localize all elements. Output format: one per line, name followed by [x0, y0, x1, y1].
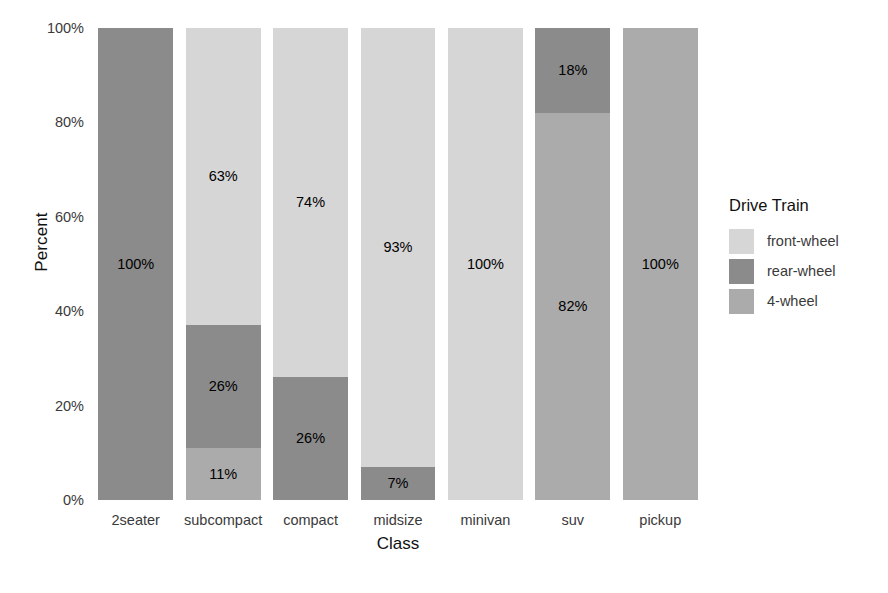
- bar-column[interactable]: 82%18%: [535, 28, 610, 500]
- bar-segment-label: 82%: [558, 299, 587, 314]
- bar-stack: 100%: [623, 28, 698, 500]
- x-axis-tick: pickup: [639, 512, 681, 528]
- x-axis-tick: suv: [562, 512, 585, 528]
- bar-column[interactable]: 100%: [623, 28, 698, 500]
- x-axis-tick: subcompact: [184, 512, 262, 528]
- bar-segment[interactable]: 82%: [535, 113, 610, 500]
- bar-stack: 26%74%: [273, 28, 348, 500]
- y-axis-tick: 40%: [0, 303, 84, 319]
- x-axis-tick-labels: 2seatersubcompactcompactmidsizeminivansu…: [92, 512, 704, 534]
- y-axis-tick: 80%: [0, 114, 84, 130]
- legend-swatch: [729, 289, 754, 314]
- legend-items: front-wheelrear-wheel4-wheel: [729, 226, 879, 316]
- legend-item-label: 4-wheel: [767, 293, 818, 309]
- bar-column[interactable]: 11%26%63%: [186, 28, 261, 500]
- x-axis-tick: 2seater: [112, 512, 160, 528]
- bar-stack: 7%93%: [361, 28, 436, 500]
- bar-column[interactable]: 100%: [448, 28, 523, 500]
- plot-panel: 100%11%26%63%26%74%7%93%100%82%18%100%: [92, 28, 704, 500]
- x-axis-title: Class: [92, 534, 704, 554]
- bar-stack: 82%18%: [535, 28, 610, 500]
- legend-swatch: [729, 229, 754, 254]
- bar-segment[interactable]: 26%: [273, 377, 348, 500]
- y-axis-tick: 0%: [0, 492, 84, 508]
- bar-segment[interactable]: 100%: [623, 28, 698, 500]
- bar-column[interactable]: 7%93%: [361, 28, 436, 500]
- bar-stack: 100%: [448, 28, 523, 500]
- bar-segment-label: 100%: [467, 257, 504, 272]
- y-axis-tick: 20%: [0, 398, 84, 414]
- bar-segment[interactable]: 7%: [361, 467, 436, 500]
- bar-segment[interactable]: 11%: [186, 448, 261, 500]
- bar-segment[interactable]: 18%: [535, 28, 610, 113]
- bar-column[interactable]: 26%74%: [273, 28, 348, 500]
- legend-item[interactable]: rear-wheel: [729, 256, 879, 286]
- x-axis-tick: midsize: [373, 512, 422, 528]
- bar-segment-label: 100%: [117, 257, 154, 272]
- legend-swatch: [729, 259, 754, 284]
- bar-segment-label: 74%: [296, 195, 325, 210]
- bar-stack: 11%26%63%: [186, 28, 261, 500]
- bar-segment-label: 100%: [642, 257, 679, 272]
- legend-item-label: rear-wheel: [767, 263, 836, 279]
- bar-segment[interactable]: 93%: [361, 28, 436, 467]
- x-axis-tick: compact: [283, 512, 338, 528]
- legend-title: Drive Train: [729, 196, 879, 215]
- bar-segment-label: 7%: [388, 476, 409, 491]
- y-axis-tick: 100%: [0, 20, 84, 36]
- bar-stack: 100%: [98, 28, 173, 500]
- stacked-bar-chart: Percent 0%20%40%60%80%100% 100%11%26%63%…: [0, 0, 888, 593]
- y-axis-tick: 60%: [0, 209, 84, 225]
- bar-segment[interactable]: 74%: [273, 28, 348, 377]
- bar-segment[interactable]: 63%: [186, 28, 261, 325]
- bar-segment-label: 26%: [296, 431, 325, 446]
- x-axis-tick: minivan: [460, 512, 510, 528]
- bar-segment[interactable]: 100%: [448, 28, 523, 500]
- bar-segment-label: 18%: [558, 63, 587, 78]
- bar-segment-label: 93%: [383, 240, 412, 255]
- legend-item-label: front-wheel: [767, 233, 839, 249]
- y-axis-tick-labels: 0%20%40%60%80%100%: [0, 0, 84, 593]
- bar-segment-label: 11%: [209, 467, 237, 482]
- bar-segment-label: 63%: [209, 169, 238, 184]
- bar-segment[interactable]: 26%: [186, 325, 261, 448]
- bar-segment-label: 26%: [209, 379, 238, 394]
- legend: Drive Train front-wheelrear-wheel4-wheel: [729, 196, 879, 316]
- bar-column[interactable]: 100%: [98, 28, 173, 500]
- bar-segment[interactable]: 100%: [98, 28, 173, 500]
- legend-item[interactable]: front-wheel: [729, 226, 879, 256]
- legend-item[interactable]: 4-wheel: [729, 286, 879, 316]
